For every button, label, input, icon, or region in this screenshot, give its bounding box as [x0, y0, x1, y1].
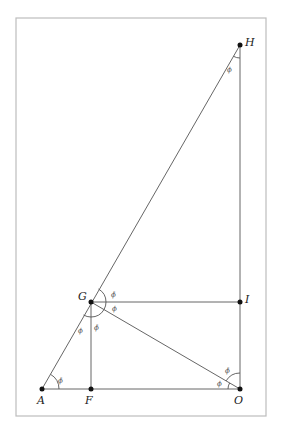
- label-A: A: [36, 394, 45, 407]
- angle-label-G-right: ϕ: [112, 305, 117, 313]
- point-A: [40, 387, 45, 392]
- label-I: I: [244, 293, 250, 306]
- arc-at-H: [234, 56, 241, 58]
- point-G: [89, 300, 94, 305]
- segments: [42, 45, 240, 389]
- arc-at-G-upper: [84, 289, 107, 317]
- angle-arcs: [51, 56, 241, 389]
- angle-label-O-lower: ϕ: [217, 380, 222, 388]
- label-O: O: [234, 394, 243, 407]
- angle-label-G-upper: ϕ̄: [111, 291, 116, 299]
- geometry-diagram: ϕ ϕ̄ ϕ̄ ϕ ϕ ϕ̄ ϕ̄ ϕ H G I A F O: [0, 0, 283, 434]
- angle-label-H: ϕ: [227, 66, 232, 74]
- point-H: [238, 43, 243, 48]
- label-F: F: [84, 394, 93, 407]
- label-G: G: [78, 290, 87, 303]
- point-I: [238, 300, 243, 305]
- segment-AH: [42, 45, 240, 389]
- point-F: [89, 387, 94, 392]
- angle-label-O-upper: ϕ̄: [225, 367, 230, 375]
- angle-label-G-lower: ϕ̄: [94, 324, 99, 332]
- angle-label-G-lower-left: ϕ: [78, 327, 83, 335]
- angle-label-A: ϕ̄: [58, 377, 63, 385]
- point-O: [238, 387, 243, 392]
- arc-at-O-lower: [228, 383, 230, 389]
- segment-GO: [91, 302, 240, 389]
- label-H: H: [244, 36, 255, 49]
